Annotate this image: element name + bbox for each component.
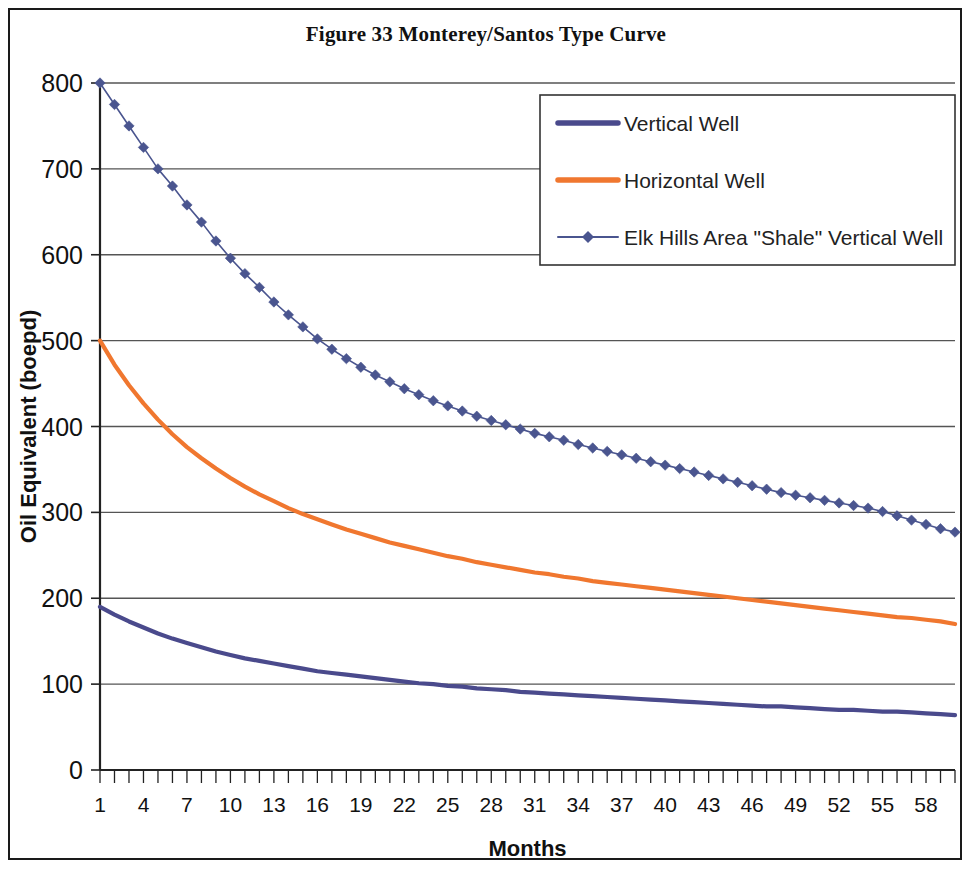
data-point-marker [443, 401, 453, 411]
data-point-marker [544, 432, 554, 442]
y-tick-label: 0 [69, 756, 83, 784]
data-point-marker [602, 446, 612, 456]
data-point-marker [457, 406, 467, 416]
data-point-marker [530, 428, 540, 438]
series-line [100, 341, 955, 624]
data-point-marker [631, 453, 641, 463]
chart-legend: Vertical WellHorizontal WellElk Hills Ar… [540, 95, 955, 265]
y-tick-label: 600 [41, 241, 83, 269]
y-tick-label: 700 [41, 155, 83, 183]
data-point-marker [834, 498, 844, 508]
legend-label: Horizontal Well [624, 169, 765, 192]
data-point-marker [385, 377, 395, 387]
data-point-marker [877, 506, 887, 516]
data-point-marker [486, 415, 496, 425]
data-point-marker [414, 390, 424, 400]
x-tick-label: 55 [871, 793, 894, 816]
chart-plot: 8007006005004003002001000 14710131619222… [0, 0, 972, 872]
data-point-marker [138, 142, 148, 152]
x-tick-label: 37 [610, 793, 633, 816]
data-point-marker [674, 463, 684, 473]
x-tick-label: 40 [653, 793, 676, 816]
data-point-marker [689, 467, 699, 477]
data-point-marker [921, 519, 931, 529]
x-tick-label: 43 [697, 793, 720, 816]
data-point-marker [761, 484, 771, 494]
data-point-marker [616, 450, 626, 460]
x-tick-label: 13 [262, 793, 285, 816]
y-axis-ticks: 8007006005004003002001000 [41, 69, 100, 784]
data-point-marker [399, 384, 409, 394]
data-point-marker [559, 435, 569, 445]
x-tick-label: 46 [740, 793, 763, 816]
data-point-marker [703, 470, 713, 480]
series-2 [100, 341, 955, 624]
y-tick-label: 500 [41, 327, 83, 355]
axis-titles-group: MonthsOil Equivalent (boepd) [16, 310, 567, 861]
x-tick-label: 58 [914, 793, 937, 816]
data-point-marker [356, 362, 366, 372]
data-point-marker [573, 439, 583, 449]
x-tick-label: 1 [94, 793, 106, 816]
data-point-marker [515, 424, 525, 434]
legend-label: Elk Hills Area "Shale" Vertical Well [624, 226, 943, 249]
data-point-marker [109, 99, 119, 109]
x-tick-label: 31 [523, 793, 546, 816]
x-tick-label: 22 [393, 793, 416, 816]
data-point-marker [935, 523, 945, 533]
x-axis-ticks: 1471013161922252831343740434649525558 [94, 770, 955, 816]
data-point-marker [790, 490, 800, 500]
data-point-marker [124, 121, 134, 131]
series-1 [100, 607, 955, 715]
data-point-marker [341, 353, 351, 363]
data-point-marker [805, 493, 815, 503]
data-point-marker [645, 457, 655, 467]
data-point-marker [501, 420, 511, 430]
data-point-marker [732, 477, 742, 487]
data-point-marker [472, 411, 482, 421]
data-point-marker [819, 495, 829, 505]
data-point-marker [327, 344, 337, 354]
data-point-marker [776, 487, 786, 497]
x-tick-label: 28 [480, 793, 503, 816]
x-tick-label: 52 [827, 793, 850, 816]
data-point-marker [718, 474, 728, 484]
data-point-marker [370, 370, 380, 380]
x-tick-label: 10 [219, 793, 242, 816]
data-point-marker [428, 396, 438, 406]
y-tick-label: 300 [41, 498, 83, 526]
x-tick-label: 7 [181, 793, 193, 816]
data-point-marker [95, 78, 105, 88]
series-line [100, 607, 955, 715]
y-axis-title: Oil Equivalent (boepd) [16, 310, 41, 543]
data-point-marker [588, 443, 598, 453]
x-tick-label: 49 [784, 793, 807, 816]
x-tick-label: 4 [138, 793, 150, 816]
data-point-marker [906, 515, 916, 525]
x-tick-label: 19 [349, 793, 372, 816]
data-point-marker [747, 481, 757, 491]
y-tick-label: 100 [41, 670, 83, 698]
x-axis-title: Months [488, 836, 566, 861]
y-tick-label: 800 [41, 69, 83, 97]
data-point-marker [848, 500, 858, 510]
x-tick-label: 16 [306, 793, 329, 816]
figure-container: Figure 33 Monterey/Santos Type Curve 800… [0, 0, 972, 872]
data-point-marker [660, 460, 670, 470]
y-tick-label: 400 [41, 413, 83, 441]
x-tick-label: 34 [567, 793, 591, 816]
legend-label: Vertical Well [624, 112, 739, 135]
data-point-marker [950, 527, 960, 537]
y-tick-label: 200 [41, 584, 83, 612]
x-tick-label: 25 [436, 793, 459, 816]
